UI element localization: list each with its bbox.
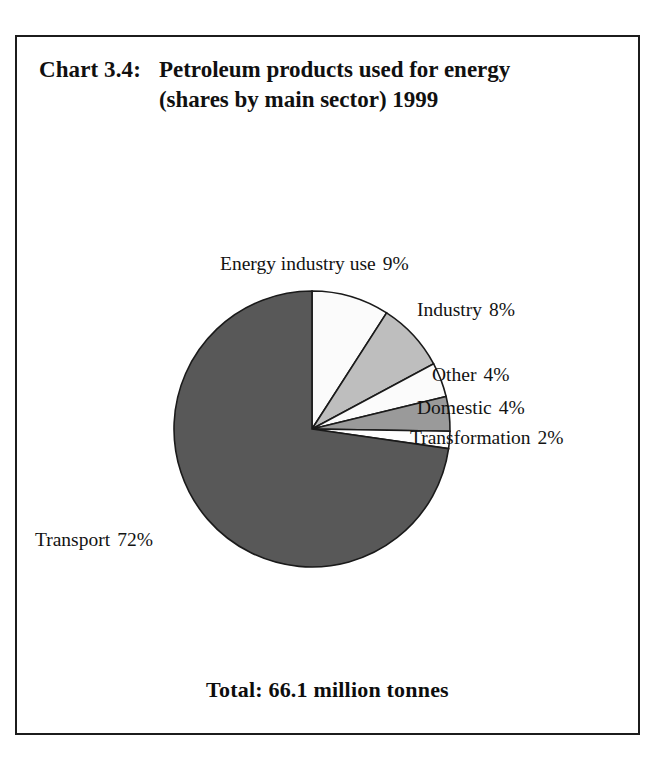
pie-label-other-text: Other	[432, 364, 476, 385]
pie-label-industry-text: Industry	[417, 299, 482, 320]
pie-label-transformation-value: 2%	[538, 427, 564, 448]
pie-label-transformation-text: Transformation	[410, 427, 531, 448]
chart-title-block: Chart 3.4: Petroleum products used for e…	[39, 55, 599, 115]
pie-label-domestic: Domestic4%	[417, 397, 525, 419]
pie-label-other-value: 4%	[483, 364, 509, 385]
pie-label-domestic-text: Domestic	[417, 397, 492, 418]
chart-total-label: Total: 66.1 million tonnes	[17, 677, 638, 703]
pie-label-other: Other4%	[432, 364, 509, 386]
pie-label-domestic-value: 4%	[499, 397, 525, 418]
pie-label-industry: Industry8%	[417, 299, 515, 321]
pie-label-energy-industry-use-text: Energy industry use	[220, 253, 376, 274]
pie-label-transport-value: 72%	[117, 529, 153, 550]
pie-chart-graphic	[17, 37, 638, 733]
pie-label-energy-industry-use: Energy industry use9%	[220, 253, 409, 275]
pie-label-transformation: Transformation2%	[410, 427, 564, 449]
pie-slice-energy-industry-use	[312, 291, 387, 429]
chart-number-label: Chart 3.4:	[39, 55, 141, 85]
pie-label-transport-text: Transport	[35, 529, 110, 550]
pie-slice-transport	[174, 291, 449, 567]
pie-slice-industry	[312, 313, 434, 429]
pie-label-industry-value: 8%	[489, 299, 515, 320]
chart-frame: Chart 3.4: Petroleum products used for e…	[15, 35, 640, 735]
pie-label-energy-industry-use-value: 9%	[383, 253, 409, 274]
pie-label-transport: Transport72%	[35, 529, 153, 551]
page-title: Petroleum products used for energy (shar…	[159, 55, 549, 115]
chart-page: Chart 3.4: Petroleum products used for e…	[0, 0, 656, 763]
pie-slice-group	[174, 291, 450, 567]
pie-svg	[17, 37, 638, 733]
